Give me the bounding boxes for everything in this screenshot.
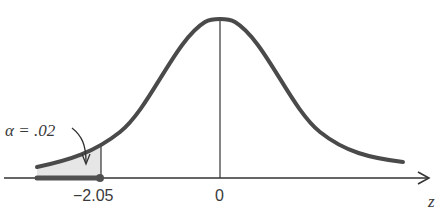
critical-point-marker [96,174,104,182]
z-axis-label: z [427,192,435,211]
critical-value-label: −2.05 [73,187,114,204]
zero-label: 0 [215,187,224,204]
normal-distribution-diagram: α = .02 −2.05 0 z [0,0,440,222]
alpha-label: α = .02 [5,121,56,140]
